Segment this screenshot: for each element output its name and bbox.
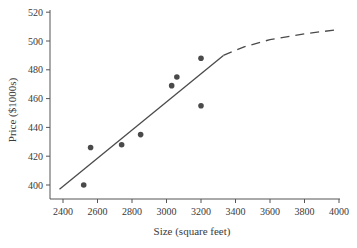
- axes: [50, 10, 340, 199]
- y-tick-label: 420: [28, 151, 43, 162]
- x-axis-label: Size (square feet): [154, 225, 231, 238]
- y-axis-label: Price ($1000s): [6, 77, 19, 142]
- scatter-chart: 400420440460480500520 240026002800300032…: [0, 0, 357, 248]
- fit-lines: [60, 30, 340, 190]
- data-point: [88, 145, 94, 151]
- y-tick-label: 440: [28, 122, 43, 133]
- x-tick-label: 3600: [260, 206, 280, 217]
- y-tick-label: 400: [28, 180, 43, 191]
- x-tick-label: 2400: [53, 206, 73, 217]
- y-tick-label: 520: [28, 7, 43, 18]
- regression-line: [60, 55, 224, 189]
- data-point: [198, 103, 204, 109]
- data-point: [169, 83, 175, 89]
- y-tick-label: 500: [28, 36, 43, 47]
- data-point: [81, 182, 87, 188]
- data-point: [198, 55, 204, 61]
- x-tick-label: 3800: [295, 206, 315, 217]
- chart-canvas: 400420440460480500520 240026002800300032…: [0, 0, 357, 248]
- x-tick-label: 2800: [122, 206, 142, 217]
- data-point: [174, 74, 180, 80]
- x-tick-label: 3400: [226, 206, 246, 217]
- x-tick-label: 2600: [88, 206, 108, 217]
- data-point: [119, 142, 125, 148]
- x-tick-label: 3200: [191, 206, 211, 217]
- extrapolated-curve: [223, 30, 339, 56]
- x-axis-ticks: 240026002800300032003400360038004000: [53, 199, 349, 217]
- data-point: [138, 132, 144, 138]
- y-tick-label: 480: [28, 64, 43, 75]
- x-tick-label: 4000: [329, 206, 349, 217]
- y-tick-label: 460: [28, 93, 43, 104]
- x-tick-label: 3000: [157, 206, 177, 217]
- y-axis-ticks: 400420440460480500520: [28, 7, 50, 191]
